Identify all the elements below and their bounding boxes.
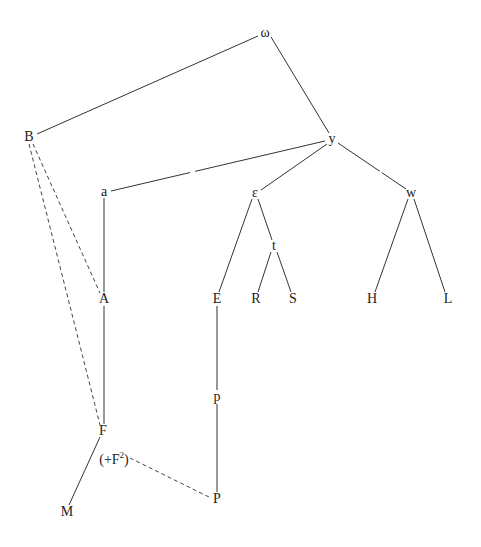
f2-suffix: ): [124, 452, 129, 467]
edge-F-M: [69, 437, 100, 505]
edge-B-A: [33, 144, 100, 293]
edge-epsilon-t: [258, 199, 272, 240]
edge-omega-y: [271, 37, 329, 133]
node-epsilon: ε: [252, 186, 258, 200]
f2-label: (+F: [99, 452, 119, 467]
edge-w-L: [414, 199, 445, 292]
edge-epsilon-E: [219, 199, 252, 292]
node-y: y: [329, 132, 336, 146]
node-B: B: [24, 130, 33, 144]
edges-layer: [0, 0, 481, 547]
edge-t-S: [277, 252, 291, 292]
edge-B-F: [29, 144, 100, 425]
node-A: A: [99, 292, 109, 306]
node-E: E: [213, 292, 222, 306]
node-F2-annotation: (+F2): [99, 451, 129, 467]
edge-t-R: [258, 252, 271, 292]
node-S: S: [289, 292, 297, 306]
edge-w-H: [375, 199, 408, 292]
edge-y-a: [111, 141, 325, 191]
node-a: a: [101, 185, 107, 199]
node-H: H: [367, 292, 377, 306]
node-M: M: [61, 505, 73, 519]
tree-diagram: ω B y a ε w t A E R S H L p F (+F2) P M: [0, 0, 481, 547]
edge-y-w: [338, 143, 406, 189]
edge-omega-B: [37, 36, 258, 134]
edge-y-epsilon: [261, 144, 327, 190]
node-P: P: [213, 492, 221, 506]
node-R: R: [251, 292, 260, 306]
edge-F2-P: [130, 458, 211, 498]
node-omega: ω: [260, 26, 269, 40]
node-t: t: [272, 239, 276, 253]
node-p: p: [214, 390, 221, 404]
node-w: w: [406, 186, 416, 200]
node-L: L: [444, 292, 453, 306]
node-F: F: [99, 424, 107, 438]
